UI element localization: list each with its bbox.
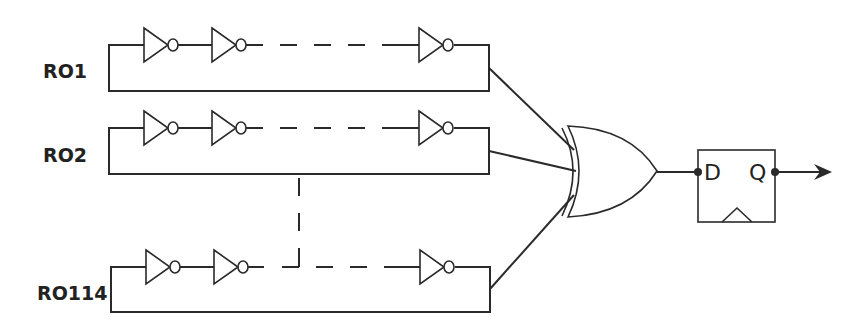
inverter-icon (144, 28, 178, 62)
ro2-label: RO2 (43, 144, 87, 166)
inverter-icon (212, 111, 246, 145)
ro114-to-xor-wire (490, 195, 574, 289)
ro1-to-xor-wire (489, 68, 574, 150)
q-label: Q (749, 160, 766, 185)
ring-oscillator-ro114: RO114 (37, 250, 490, 312)
ring-oscillator-diagram: RO1 RO2 (0, 0, 867, 333)
inverter-icon (420, 250, 454, 284)
ro114-label: RO114 (37, 282, 107, 304)
inverter-icon (419, 111, 453, 145)
inverter-icon (146, 250, 180, 284)
d-input-dot (694, 168, 702, 176)
ring-oscillator-ro2: RO2 (43, 111, 489, 174)
inverter-icon (212, 28, 246, 62)
d-label: D (704, 160, 721, 185)
ro2-to-xor-wire (489, 151, 576, 171)
ring-oscillator-ro1: RO1 (43, 28, 489, 91)
ro1-label: RO1 (43, 60, 87, 82)
xor-gate-icon (562, 126, 657, 217)
inverter-icon (214, 250, 248, 284)
d-flip-flop: D Q (694, 150, 779, 222)
inverter-icon (144, 111, 178, 145)
inverter-icon (419, 28, 453, 62)
